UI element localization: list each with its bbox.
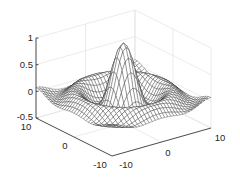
x-tick-neg-10: -10: [119, 159, 133, 170]
surface-plot: 1 0.5 0 -0.5 10 0 -10 -10 0 10: [0, 0, 240, 181]
y-tick-10: 10: [21, 121, 32, 132]
y-tick-neg-10: -10: [93, 159, 107, 170]
y-tick-0: 0: [62, 140, 67, 151]
x-tick-10: 10: [215, 132, 226, 143]
x-tick-0: 0: [165, 147, 170, 158]
z-tick-0: 0: [28, 86, 33, 97]
z-tick-1: 1: [28, 32, 33, 43]
z-tick-0-5: 0.5: [20, 59, 33, 70]
